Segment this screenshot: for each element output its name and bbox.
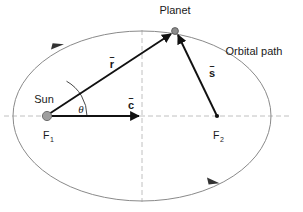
diagram-canvas: Planet Orbital path Sun F 1 F 2 θ – r – … (0, 0, 303, 212)
theta-label: θ (78, 103, 84, 115)
orbit-direction-marker-upper-left (51, 43, 64, 49)
sun-body (42, 111, 51, 120)
sun-label: Sun (34, 93, 54, 105)
orbital-path-label: Orbital path (226, 45, 283, 57)
vector-c-letter: c (128, 99, 134, 111)
orbital-diagram: Planet Orbital path Sun F 1 F 2 θ – r – … (0, 0, 303, 212)
focus-1-letter: F (43, 129, 49, 141)
vector-s-label: – s (209, 61, 215, 79)
focus-1-label: F 1 (43, 129, 54, 143)
vector-s-letter: s (209, 67, 215, 79)
focus-2-label: F 2 (213, 129, 224, 143)
orbit-direction-marker-lower-right (207, 178, 220, 185)
vector-r-letter: r (110, 58, 115, 70)
planet-label: Planet (159, 4, 190, 16)
vector-r-label: – r (109, 52, 114, 70)
focus-1-subscript: 1 (50, 136, 54, 143)
planet-body (172, 28, 179, 35)
vector-r-line (49, 34, 171, 114)
focus-2-letter: F (213, 129, 219, 141)
theta-angle-arc (67, 81, 88, 116)
focus-2-subscript: 2 (220, 136, 224, 143)
focus-2-point (215, 114, 219, 118)
vector-c-label: – c (128, 93, 134, 111)
